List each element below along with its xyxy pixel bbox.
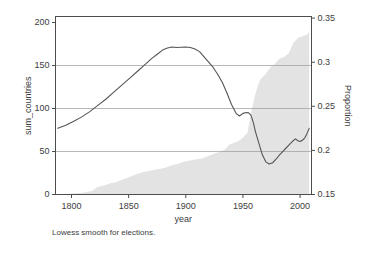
y2-tick-label: 0.3 bbox=[318, 58, 331, 67]
y-tick-label: 0 bbox=[45, 190, 50, 199]
y-tick-label: 150 bbox=[35, 61, 50, 70]
chart-caption: Lowess smooth for elections. bbox=[52, 229, 155, 237]
x-tick-label: 2000 bbox=[290, 202, 310, 211]
y2-tick-label: 0.15 bbox=[318, 190, 336, 199]
area-series-sum-countries bbox=[58, 32, 309, 195]
x-axis-title: year bbox=[175, 215, 193, 224]
y-tick-label: 50 bbox=[40, 147, 50, 156]
y2-axis-title: Proportion bbox=[343, 85, 352, 127]
x-tick-label: 1950 bbox=[233, 202, 253, 211]
y2-tick-label: 0.35 bbox=[318, 14, 336, 23]
y2-tick-label: 0.2 bbox=[318, 146, 331, 155]
y2-tick-label: 0.25 bbox=[318, 102, 336, 111]
chart-figure: year sum_countries Proportion Lowess smo… bbox=[0, 0, 383, 256]
y-axis-title: sum_countries bbox=[24, 76, 33, 135]
y-tick-label: 200 bbox=[35, 18, 50, 27]
x-tick-label: 1800 bbox=[62, 202, 82, 211]
x-tick-label: 1900 bbox=[176, 202, 196, 211]
y-tick-label: 100 bbox=[35, 104, 50, 113]
x-tick-label: 1850 bbox=[119, 202, 139, 211]
